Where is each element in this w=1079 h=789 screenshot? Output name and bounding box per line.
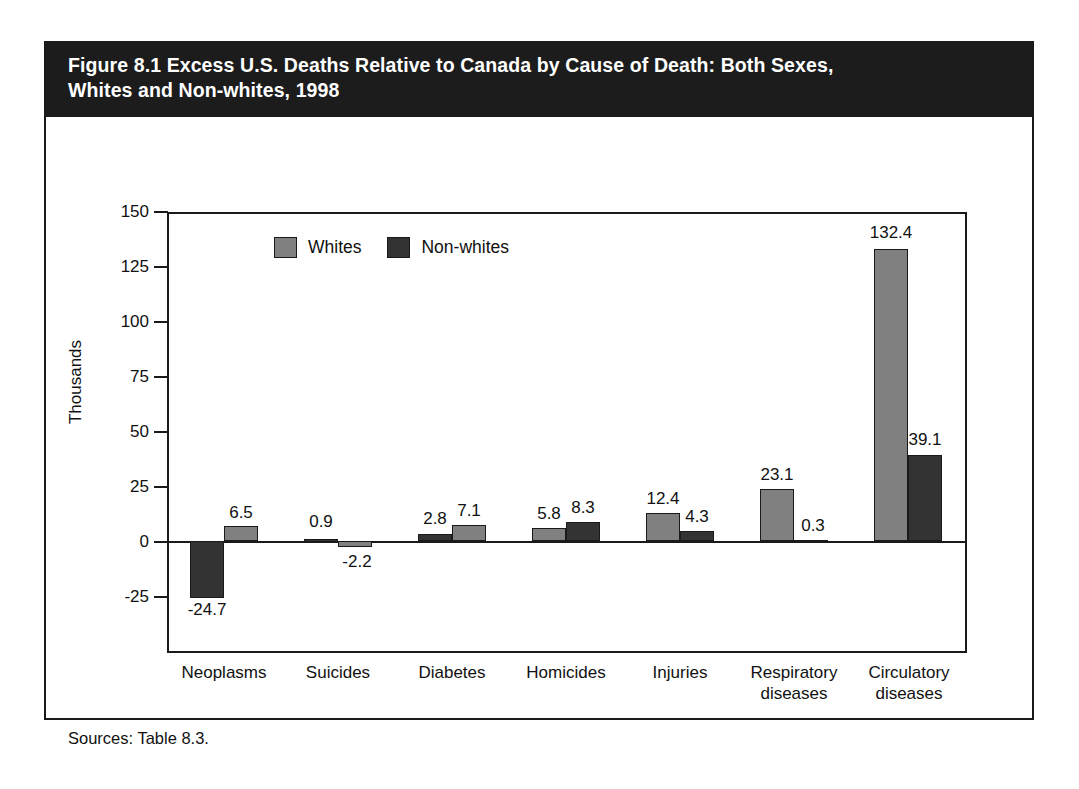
y-tick-label-25: 25 (89, 478, 149, 495)
source-note: Sources: Table 8.3. (68, 729, 209, 748)
y-tick-mark-50 (154, 431, 168, 433)
bar-label-suicides-nonwhites: 0.9 (287, 513, 355, 530)
y-tick-mark-0 (154, 541, 168, 543)
plot-area: 150 125 100 75 50 25 (46, 117, 1032, 720)
bar-circulatory-nonwhites[interactable] (908, 455, 942, 541)
y-tick-mark-25 (154, 486, 168, 488)
bar-homicides-whites[interactable] (532, 528, 566, 541)
y-tick-group-75: 75 (46, 368, 149, 386)
bar-label-respiratory-nonwhites: 0.3 (779, 517, 847, 534)
bar-diabetes-whites[interactable] (452, 525, 486, 541)
x-label-injuries: Injuries (623, 662, 737, 683)
y-tick-mark-100 (154, 321, 168, 323)
y-tick-label-50: 50 (89, 423, 149, 440)
y-axis-title: Thousands (66, 297, 86, 467)
bars-layer: -24.7 6.5 0.9 -2.2 2.8 7.1 5.8 (167, 212, 967, 653)
bar-group-injuries: 12.4 4.3 (623, 212, 737, 653)
bar-neoplasms-nonwhites[interactable] (190, 541, 224, 598)
y-tick-label-100: 100 (89, 313, 149, 330)
bar-label-respiratory-whites: 23.1 (739, 466, 815, 483)
bar-label-injuries-whites: 12.4 (625, 490, 701, 507)
bar-homicides-nonwhites[interactable] (566, 522, 600, 541)
y-tick-group-150: 150 (46, 203, 149, 221)
y-tick-mark-125 (154, 266, 168, 268)
bar-group-respiratory: 23.1 0.3 (737, 212, 851, 653)
bar-respiratory-nonwhites[interactable] (794, 540, 828, 542)
figure-title: Figure 8.1 Excess U.S. Deaths Relative t… (68, 53, 1014, 103)
y-tick-group-neg25: -25 (46, 588, 149, 606)
bar-group-neoplasms: -24.7 6.5 (167, 212, 281, 653)
bar-group-circulatory: 132.4 39.1 (851, 212, 967, 653)
bar-injuries-nonwhites[interactable] (680, 531, 714, 541)
x-axis-labels: Neoplasms Suicides Diabetes Homicides In… (167, 662, 967, 720)
y-tick-group-50: 50 (46, 423, 149, 441)
y-tick-label-125: 125 (89, 258, 149, 275)
bar-label-diabetes-whites: 7.1 (435, 502, 503, 519)
bar-neoplasms-whites[interactable] (224, 526, 258, 541)
figure-title-bar: Figure 8.1 Excess U.S. Deaths Relative t… (46, 43, 1032, 117)
y-tick-label-0: 0 (89, 533, 149, 550)
y-tick-group-100: 100 (46, 313, 149, 331)
y-tick-label-150: 150 (89, 203, 149, 220)
bar-label-suicides-whites: -2.2 (323, 553, 391, 570)
y-tick-mark-neg25 (154, 596, 168, 598)
bar-group-homicides: 5.8 8.3 (509, 212, 623, 653)
bar-label-circulatory-whites: 132.4 (849, 224, 933, 241)
bar-label-homicides-nonwhites: 8.3 (549, 499, 617, 516)
y-tick-group-25: 25 (46, 478, 149, 496)
x-label-suicides: Suicides (281, 662, 395, 683)
bar-suicides-whites[interactable] (338, 541, 372, 547)
y-tick-group-0: 0 (46, 533, 149, 551)
bar-label-neoplasms-whites: 6.5 (207, 504, 275, 521)
bar-circulatory-whites[interactable] (874, 249, 908, 541)
bar-label-neoplasms-nonwhites: -24.7 (170, 601, 244, 618)
bar-label-injuries-nonwhites: 4.3 (663, 508, 731, 525)
x-label-neoplasms: Neoplasms (167, 662, 281, 683)
x-label-respiratory: Respiratory diseases (737, 662, 851, 704)
bar-diabetes-nonwhites[interactable] (418, 534, 452, 541)
y-tick-mark-75 (154, 376, 168, 378)
y-tick-label-neg25: -25 (89, 588, 149, 605)
bar-suicides-nonwhites[interactable] (304, 539, 338, 542)
y-tick-label-75: 75 (89, 368, 149, 385)
x-label-diabetes: Diabetes (395, 662, 509, 683)
y-tick-group-125: 125 (46, 258, 149, 276)
y-tick-mark-150 (154, 211, 168, 213)
x-label-homicides: Homicides (509, 662, 623, 683)
bar-group-diabetes: 2.8 7.1 (395, 212, 509, 653)
bar-group-suicides: 0.9 -2.2 (281, 212, 395, 653)
x-label-circulatory: Circulatory diseases (851, 662, 967, 704)
figure-container: Figure 8.1 Excess U.S. Deaths Relative t… (44, 41, 1034, 720)
bar-label-circulatory-nonwhites: 39.1 (887, 431, 963, 448)
